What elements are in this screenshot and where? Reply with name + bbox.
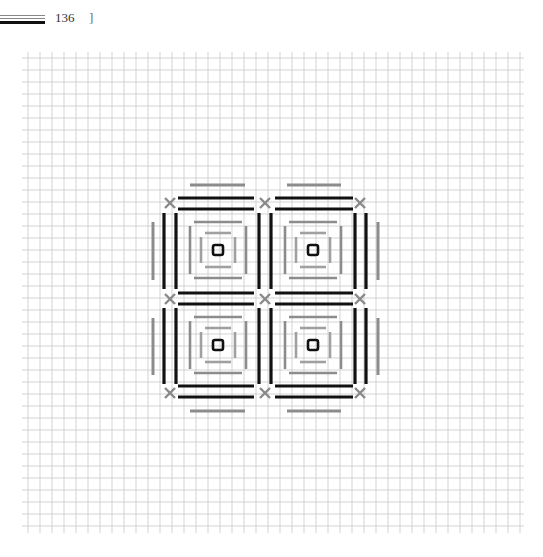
- graph-grid: [22, 52, 524, 533]
- center-square-icon: [308, 340, 318, 350]
- center-square-icon: [213, 340, 223, 350]
- stitch-chart: [0, 0, 543, 557]
